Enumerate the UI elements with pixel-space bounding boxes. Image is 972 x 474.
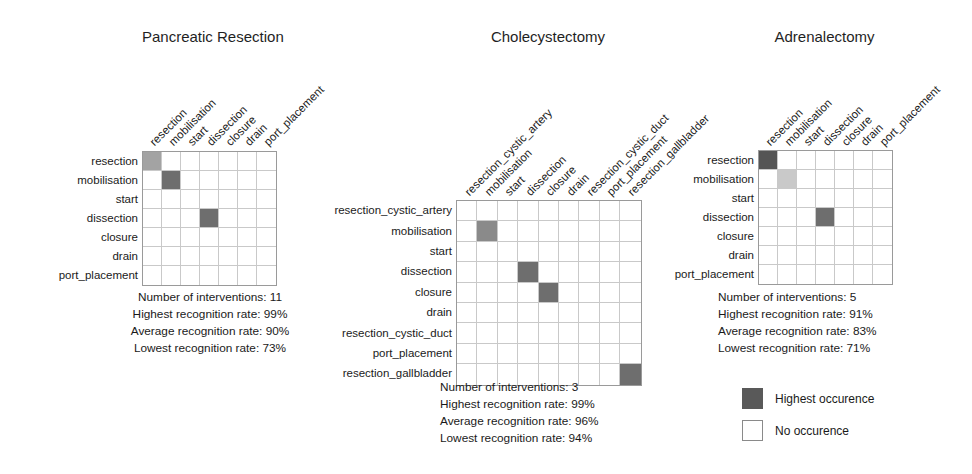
matrix-cell[interactable] (200, 152, 219, 171)
matrix-cell[interactable] (477, 344, 497, 364)
matrix-cell[interactable] (257, 152, 276, 171)
matrix-cell[interactable] (200, 190, 219, 209)
matrix-cell[interactable] (620, 283, 640, 303)
matrix-cell[interactable] (579, 303, 599, 323)
confusion-matrix[interactable] (758, 150, 893, 285)
matrix-cell[interactable] (162, 152, 181, 171)
matrix-cell[interactable] (778, 246, 797, 265)
matrix-cell[interactable] (835, 151, 854, 170)
matrix-cell[interactable] (257, 209, 276, 228)
matrix-cell[interactable] (816, 246, 835, 265)
matrix-cell[interactable] (797, 265, 816, 284)
matrix-cell[interactable] (200, 209, 219, 228)
matrix-cell[interactable] (854, 208, 873, 227)
matrix-cell[interactable] (257, 190, 276, 209)
matrix-cell[interactable] (518, 323, 538, 343)
matrix-cell[interactable] (559, 262, 579, 282)
matrix-cell[interactable] (181, 209, 200, 228)
matrix-cell[interactable] (162, 171, 181, 190)
matrix-cell[interactable] (477, 262, 497, 282)
matrix-cell[interactable] (238, 152, 257, 171)
matrix-cell[interactable] (498, 201, 518, 221)
matrix-cell[interactable] (759, 227, 778, 246)
matrix-cell[interactable] (238, 190, 257, 209)
matrix-cell[interactable] (778, 170, 797, 189)
matrix-cell[interactable] (457, 242, 477, 262)
matrix-cell[interactable] (620, 323, 640, 343)
matrix-cell[interactable] (873, 246, 892, 265)
matrix-cell[interactable] (854, 227, 873, 246)
matrix-cell[interactable] (559, 283, 579, 303)
matrix-cell[interactable] (579, 201, 599, 221)
matrix-cell[interactable] (498, 323, 518, 343)
matrix-cell[interactable] (816, 170, 835, 189)
matrix-cell[interactable] (778, 227, 797, 246)
matrix-cell[interactable] (162, 209, 181, 228)
matrix-cell[interactable] (457, 344, 477, 364)
matrix-cell[interactable] (200, 247, 219, 266)
matrix-cell[interactable] (759, 189, 778, 208)
matrix-cell[interactable] (457, 262, 477, 282)
matrix-cell[interactable] (816, 227, 835, 246)
matrix-cell[interactable] (539, 323, 559, 343)
matrix-cell[interactable] (457, 283, 477, 303)
matrix-cell[interactable] (579, 262, 599, 282)
matrix-cell[interactable] (797, 170, 816, 189)
matrix-cell[interactable] (539, 262, 559, 282)
matrix-cell[interactable] (181, 190, 200, 209)
matrix-cell[interactable] (816, 189, 835, 208)
confusion-matrix[interactable] (142, 151, 277, 286)
matrix-cell[interactable] (477, 323, 497, 343)
matrix-cell[interactable] (257, 247, 276, 266)
matrix-cell[interactable] (873, 189, 892, 208)
matrix-cell[interactable] (200, 266, 219, 285)
matrix-cell[interactable] (200, 228, 219, 247)
matrix-cell[interactable] (181, 228, 200, 247)
matrix-cell[interactable] (539, 201, 559, 221)
matrix-cell[interactable] (854, 265, 873, 284)
matrix-cell[interactable] (539, 283, 559, 303)
matrix-cell[interactable] (518, 221, 538, 241)
matrix-cell[interactable] (600, 303, 620, 323)
matrix-cell[interactable] (620, 303, 640, 323)
matrix-cell[interactable] (873, 208, 892, 227)
matrix-cell[interactable] (816, 265, 835, 284)
matrix-cell[interactable] (518, 303, 538, 323)
matrix-cell[interactable] (873, 227, 892, 246)
matrix-cell[interactable] (181, 171, 200, 190)
matrix-cell[interactable] (778, 189, 797, 208)
matrix-cell[interactable] (873, 170, 892, 189)
matrix-cell[interactable] (143, 171, 162, 190)
matrix-cell[interactable] (518, 283, 538, 303)
matrix-cell[interactable] (797, 227, 816, 246)
matrix-cell[interactable] (600, 323, 620, 343)
matrix-cell[interactable] (600, 283, 620, 303)
matrix-cell[interactable] (835, 189, 854, 208)
matrix-cell[interactable] (797, 208, 816, 227)
matrix-cell[interactable] (579, 221, 599, 241)
matrix-cell[interactable] (559, 201, 579, 221)
matrix-cell[interactable] (219, 190, 238, 209)
matrix-cell[interactable] (559, 303, 579, 323)
matrix-cell[interactable] (600, 242, 620, 262)
matrix-cell[interactable] (457, 303, 477, 323)
confusion-matrix[interactable] (456, 200, 642, 386)
matrix-cell[interactable] (759, 265, 778, 284)
matrix-cell[interactable] (816, 151, 835, 170)
matrix-cell[interactable] (518, 201, 538, 221)
matrix-cell[interactable] (873, 265, 892, 284)
matrix-cell[interactable] (559, 221, 579, 241)
matrix-cell[interactable] (778, 265, 797, 284)
matrix-cell[interactable] (539, 344, 559, 364)
matrix-cell[interactable] (539, 303, 559, 323)
matrix-cell[interactable] (835, 227, 854, 246)
matrix-cell[interactable] (238, 266, 257, 285)
matrix-cell[interactable] (835, 246, 854, 265)
matrix-cell[interactable] (143, 209, 162, 228)
matrix-cell[interactable] (539, 242, 559, 262)
matrix-cell[interactable] (600, 344, 620, 364)
matrix-cell[interactable] (219, 228, 238, 247)
matrix-cell[interactable] (579, 344, 599, 364)
matrix-cell[interactable] (238, 228, 257, 247)
matrix-cell[interactable] (759, 151, 778, 170)
